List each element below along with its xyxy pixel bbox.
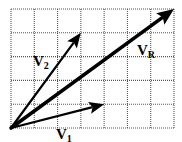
arrowhead-icon [156,9,174,25]
vector-shaft [11,18,162,128]
label-vr: VR [137,42,156,60]
vector-diagram: V1 V2 VR [0,0,182,142]
arrowhead-icon [67,33,81,49]
label-v2: V2 [33,53,49,71]
